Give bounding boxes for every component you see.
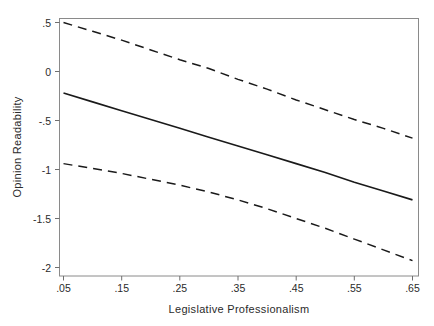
series-line-2 (64, 164, 413, 261)
plot-frame (60, 19, 419, 277)
y-tick-label: 0 (45, 66, 51, 78)
y-tick-label: -1 (42, 164, 51, 176)
data-series-layer (64, 23, 413, 261)
chart-figure: .5 0 -.5 -1 -1.5 -2 .05 .15 .25 .35 .45 … (0, 0, 434, 326)
x-tick-label: .65 (405, 282, 420, 294)
y-tick-labels: .5 0 -.5 -1 -1.5 -2 (33, 17, 51, 274)
y-tick-label: -2 (42, 262, 51, 274)
series-line-1 (64, 93, 413, 200)
x-tick-label: .05 (56, 282, 71, 294)
series-line-0 (64, 23, 413, 139)
x-tick-label: .35 (231, 282, 246, 294)
x-tick-marks (64, 276, 413, 281)
x-tick-label: .45 (289, 282, 304, 294)
y-tick-label: -.5 (39, 115, 51, 127)
y-tick-marks (55, 23, 60, 268)
x-tick-label: .55 (347, 282, 362, 294)
y-tick-label: .5 (42, 17, 51, 29)
y-axis-title: Opinion Readability (11, 96, 23, 197)
x-tick-label: .15 (114, 282, 129, 294)
x-tick-label: .25 (172, 282, 187, 294)
y-tick-label: -1.5 (33, 213, 51, 225)
x-tick-labels: .05 .15 .25 .35 .45 .55 .65 (56, 282, 420, 294)
x-axis-title: Legislative Professionalism (169, 303, 310, 315)
chart-canvas: .5 0 -.5 -1 -1.5 -2 .05 .15 .25 .35 .45 … (0, 0, 434, 326)
